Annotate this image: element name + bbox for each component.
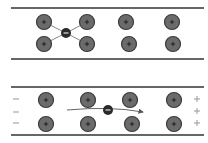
positive-ion xyxy=(80,37,95,52)
panel-bottom xyxy=(11,87,204,135)
positive-ion xyxy=(123,93,138,108)
positive-ion xyxy=(167,93,182,108)
right-positive-charges xyxy=(194,96,200,126)
positive-ion xyxy=(119,15,134,30)
positive-ion xyxy=(81,93,96,108)
positive-ion xyxy=(167,117,182,132)
positive-ion xyxy=(166,37,181,52)
electron xyxy=(103,105,113,115)
positive-ion xyxy=(122,37,137,52)
diagram-canvas xyxy=(0,0,208,143)
positive-ion xyxy=(165,15,180,30)
positive-ion xyxy=(125,117,140,132)
panel-top xyxy=(11,8,204,59)
ion-lattice xyxy=(37,15,181,52)
left-negative-charges xyxy=(13,99,19,123)
positive-ion xyxy=(81,117,96,132)
positive-ion xyxy=(39,93,54,108)
positive-ion xyxy=(80,15,95,30)
positive-ion xyxy=(37,37,52,52)
electron xyxy=(61,28,71,38)
positive-ion xyxy=(37,15,52,30)
positive-ion xyxy=(39,117,54,132)
